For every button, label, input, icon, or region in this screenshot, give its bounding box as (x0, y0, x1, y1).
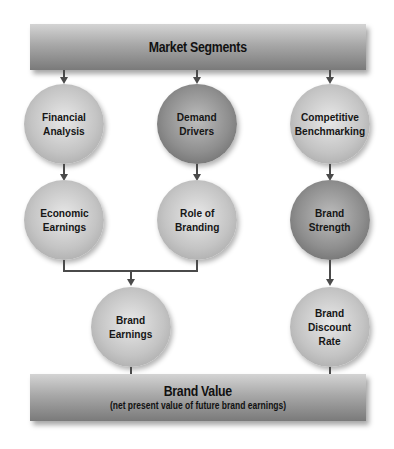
node-label: Brand Strength (309, 206, 351, 234)
brand-value-subtitle: (net present value of future brand earni… (55, 400, 341, 411)
arrow-down-icon (326, 77, 334, 84)
node-economic-earnings: Economic Earnings (24, 180, 104, 260)
brand-value-bar: Brand Value (net present value of future… (30, 374, 366, 421)
node-brand-discount-rate: Brand Discount Rate (290, 287, 370, 367)
node-brand-earnings: Brand Earnings (91, 287, 171, 367)
arrow-down-icon (127, 279, 135, 286)
arrow-down-icon (326, 279, 334, 286)
node-competitive-benchmarking: Competitive Benchmarking (290, 84, 370, 164)
node-label: Brand Discount Rate (308, 306, 351, 348)
node-label: Role of Branding (175, 206, 219, 234)
node-demand-drivers: Demand Drivers (157, 84, 237, 164)
connector-line (329, 367, 331, 374)
connector-line (329, 260, 331, 280)
arrow-down-icon (193, 77, 201, 84)
node-label: Financial Analysis (42, 110, 86, 138)
node-label: Competitive Benchmarking (295, 110, 365, 138)
node-brand-strength: Brand Strength (290, 180, 370, 260)
node-label: Brand Earnings (109, 313, 152, 341)
connector-line (130, 367, 132, 374)
node-financial-analysis: Financial Analysis (24, 84, 104, 164)
brand-value-title: Brand Value (164, 383, 232, 399)
arrow-down-icon (60, 77, 68, 84)
node-role-of-branding: Role of Branding (157, 180, 237, 260)
node-label: Economic Earnings (40, 206, 88, 234)
node-label: Demand Drivers (177, 110, 217, 138)
market-segments-title: Market Segments (149, 39, 247, 55)
market-segments-bar: Market Segments (30, 24, 366, 70)
